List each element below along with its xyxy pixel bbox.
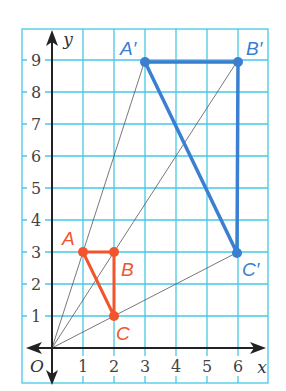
point-c-prime — [232, 248, 242, 258]
label-c: C — [116, 323, 130, 344]
point-b-prime — [233, 57, 243, 67]
label-b-prime: B′ — [246, 38, 264, 59]
grid — [22, 29, 268, 383]
y-tick-labels: 9 8 7 6 5 4 3 2 1 — [31, 51, 41, 326]
x-tick-labels: 1 2 3 4 5 6 — [78, 357, 243, 376]
label-a-prime: A′ — [119, 38, 138, 59]
svg-text:8: 8 — [31, 83, 41, 102]
label-c-prime: C′ — [242, 259, 261, 280]
dilation-diagram: 9 8 7 6 5 4 3 2 1 1 2 3 4 5 6 O x y A′ B… — [0, 0, 286, 391]
axes — [26, 30, 266, 385]
svg-text:6: 6 — [31, 147, 41, 166]
point-b — [109, 247, 119, 257]
svg-text:7: 7 — [31, 115, 41, 134]
svg-text:4: 4 — [31, 211, 41, 230]
point-c — [109, 311, 119, 321]
svg-text:5: 5 — [202, 357, 212, 376]
svg-text:4: 4 — [171, 357, 181, 376]
svg-text:5: 5 — [31, 179, 41, 198]
svg-text:3: 3 — [31, 243, 41, 262]
svg-text:6: 6 — [233, 357, 243, 376]
label-a: A — [61, 228, 75, 249]
y-axis-label: y — [62, 29, 73, 49]
point-a — [78, 247, 88, 257]
svg-text:3: 3 — [140, 357, 150, 376]
x-axis-label: x — [257, 357, 267, 377]
label-b: B — [121, 259, 134, 280]
point-a-prime — [140, 57, 150, 67]
svg-text:1: 1 — [31, 307, 41, 326]
svg-text:9: 9 — [31, 51, 41, 70]
origin-label: O — [30, 356, 44, 376]
svg-text:2: 2 — [109, 357, 119, 376]
svg-text:2: 2 — [31, 275, 41, 294]
svg-text:1: 1 — [78, 357, 88, 376]
